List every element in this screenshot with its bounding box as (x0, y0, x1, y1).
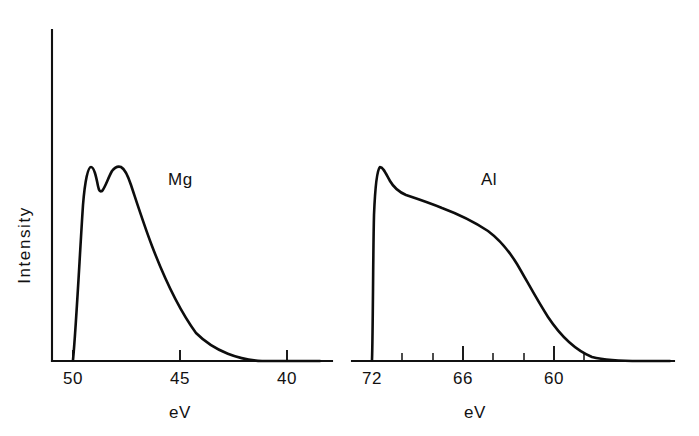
al-tick-group (372, 346, 584, 361)
mg-x-axis-title: eV (169, 403, 191, 422)
series-label-mg: Mg (168, 170, 193, 189)
mg-tick-label-40: 40 (277, 369, 297, 388)
al-tick-label-72: 72 (362, 369, 382, 388)
al-spectrum-curve (372, 167, 670, 361)
mg-spectrum-curve (73, 167, 320, 361)
al-x-axis-title: eV (464, 403, 486, 422)
al-tick-label-66: 66 (453, 369, 473, 388)
series-label-al: Al (481, 170, 497, 189)
figure-container: 50 45 40 72 66 60 eV eV Intensity Mg Al (0, 0, 699, 436)
mg-tick-label-50: 50 (63, 369, 83, 388)
al-tick-label-60: 60 (544, 369, 564, 388)
spectra-plot: 50 45 40 72 66 60 eV eV Intensity Mg Al (0, 0, 699, 436)
mg-tick-label-45: 45 (170, 369, 190, 388)
y-axis-title: Intensity (15, 206, 34, 284)
